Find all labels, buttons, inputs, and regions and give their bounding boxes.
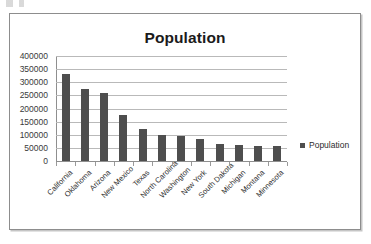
x-axis-tick xyxy=(114,162,115,166)
gridline xyxy=(56,148,287,149)
plot-area xyxy=(56,56,287,161)
legend-label-population: Population xyxy=(309,141,349,150)
x-axis-tick-label: Arizona xyxy=(81,168,113,200)
chart-title: Population xyxy=(10,29,360,47)
y-axis-tick-label: 100000 xyxy=(20,131,48,140)
bar xyxy=(254,146,262,161)
x-axis-tick xyxy=(95,162,96,166)
bar xyxy=(62,74,70,161)
chart-legend: Population xyxy=(300,141,349,150)
x-axis-tick xyxy=(229,162,230,166)
bar xyxy=(81,89,89,161)
gridline xyxy=(56,95,287,96)
bar xyxy=(235,145,243,161)
bar xyxy=(119,115,127,161)
x-axis-tick-label: Oklahoma xyxy=(61,168,93,200)
gridline xyxy=(56,82,287,83)
x-axis-tick-label: Washington xyxy=(158,168,190,200)
y-axis-tick-labels: 0500001000001500002000002500003000003500… xyxy=(10,56,52,161)
x-axis-tick xyxy=(152,162,153,166)
x-axis-tick xyxy=(133,162,134,166)
gridline xyxy=(56,109,287,110)
legend-swatch-population xyxy=(300,143,305,148)
bar xyxy=(273,146,281,161)
x-axis-tick xyxy=(191,162,192,166)
x-axis-tick xyxy=(75,162,76,166)
x-axis-tick-label: Michigan xyxy=(215,168,247,200)
x-axis-tick xyxy=(210,162,211,166)
x-axis-tick xyxy=(287,162,288,166)
bar xyxy=(158,135,166,162)
gridline xyxy=(56,56,287,57)
bar xyxy=(100,93,108,161)
x-axis-tick-label: South Dakota xyxy=(196,168,228,200)
y-axis-tick-label: 150000 xyxy=(20,117,48,126)
gridline xyxy=(56,122,287,123)
y-axis-tick-label: 200000 xyxy=(20,104,48,113)
x-axis-tick xyxy=(172,162,173,166)
x-axis-tick-label: Montana xyxy=(235,168,267,200)
bar xyxy=(216,144,224,161)
gridline xyxy=(56,135,287,136)
y-axis-tick-label: 400000 xyxy=(20,52,48,61)
x-axis-tick-label: California xyxy=(42,168,74,200)
x-axis-tick xyxy=(56,162,57,166)
x-axis-tick-label: Minnesota xyxy=(254,168,286,200)
bar xyxy=(196,139,204,161)
x-axis-tick-label: New Mexico xyxy=(100,168,132,200)
y-axis-tick-label: 250000 xyxy=(20,91,48,100)
bar xyxy=(139,129,147,161)
chart-container: Population 05000010000015000020000025000… xyxy=(9,13,361,230)
x-axis-tick xyxy=(268,162,269,166)
x-axis-tick-label: Texas xyxy=(119,168,151,200)
bar xyxy=(177,136,185,161)
gridline xyxy=(56,69,287,70)
y-axis-tick-label: 0 xyxy=(43,157,48,166)
y-axis-tick-label: 350000 xyxy=(20,65,48,74)
capture-artifact xyxy=(6,0,32,7)
y-axis-tick-label: 50000 xyxy=(24,144,48,153)
x-axis-tick xyxy=(249,162,250,166)
x-axis-tick-label: North Carolina xyxy=(138,168,170,200)
y-axis-tick-label: 300000 xyxy=(20,78,48,87)
x-axis-tick-label: New York xyxy=(177,168,209,200)
